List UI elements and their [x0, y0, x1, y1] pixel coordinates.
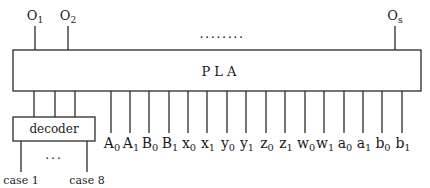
diagram-canvas: P L A ........ O1O2Os decoder ... case 1…	[0, 0, 430, 188]
input-label-A0: A0	[103, 135, 120, 153]
input-label-B1-base: B	[162, 135, 172, 151]
input-label-b1-subscript: 1	[404, 142, 410, 153]
input-label-b0-subscript: 0	[384, 142, 390, 153]
input-label-w0-subscript: 0	[309, 142, 315, 153]
input-label-y0-base: y	[220, 135, 229, 151]
input-label-y1-base: y	[239, 135, 248, 151]
output-label-os: Os	[387, 8, 403, 25]
input-label-x1: x1	[201, 135, 215, 153]
input-label-a0-subscript: 0	[346, 142, 352, 153]
output-label-o2-subscript: 2	[70, 15, 76, 25]
input-label-B0: B0	[142, 135, 159, 153]
input-label-b0-base: b	[375, 135, 384, 151]
input-label-A1: A1	[122, 135, 139, 153]
decoder-label: decoder	[29, 122, 79, 136]
input-label-x0-base: x	[182, 135, 190, 151]
input-label-x1-subscript: 1	[209, 142, 215, 153]
pla-label: P L A	[201, 64, 237, 79]
input-label-w1-subscript: 1	[328, 142, 334, 153]
output-label-o2: O2	[60, 8, 76, 25]
input-label-x0-subscript: 0	[190, 142, 196, 153]
input-label-x1-base: x	[201, 135, 209, 151]
input-label-z1-base: z	[279, 135, 286, 151]
pla-block: P L A	[13, 50, 421, 91]
input-label-B0-subscript: 0	[152, 142, 158, 153]
input-label-B1: B1	[162, 135, 179, 153]
input-label-a1-subscript: 1	[365, 142, 371, 153]
output-label-o1-subscript: 1	[37, 15, 43, 25]
outputs-ellipsis: ........	[199, 26, 244, 41]
pla-diagram: P L A ........ O1O2Os decoder ... case 1…	[0, 0, 430, 188]
decoder-ellipsis: ...	[45, 148, 62, 162]
input-label-B1-subscript: 1	[172, 142, 178, 153]
output-label-o1-base: O	[27, 8, 38, 23]
output-label-os-base: O	[387, 8, 398, 23]
output-label-o2-base: O	[60, 8, 71, 23]
case-label: case 1	[3, 174, 38, 187]
input-label-z0-base: z	[260, 135, 267, 151]
input-label-z0-subscript: 0	[268, 142, 274, 153]
output-label-os-subscript: s	[398, 15, 403, 25]
decoder-input-lines	[34, 91, 75, 117]
input-label-b1: b1	[395, 135, 410, 153]
input-label-B0-base: B	[142, 135, 152, 151]
input-label-y0: y0	[220, 135, 235, 153]
input-label-w0: w0	[297, 135, 315, 153]
input-label-y0-subscript: 0	[229, 142, 235, 153]
input-label-y1: y1	[239, 135, 254, 153]
case-label: case 8	[69, 174, 104, 187]
input-label-x0: x0	[182, 135, 196, 153]
input-label-w0-base: w	[297, 135, 309, 151]
input-label-z1-subscript: 1	[287, 142, 293, 153]
input-label-w1-base: w	[316, 135, 328, 151]
output-label-o1: O1	[27, 8, 43, 25]
input-label-y1-subscript: 1	[248, 142, 254, 153]
input-label-A0-subscript: 0	[114, 142, 120, 153]
input-label-a0: a0	[338, 135, 353, 153]
input-label-z1: z1	[279, 135, 293, 153]
input-label-a1-base: a	[357, 135, 365, 151]
input-label-z0: z0	[260, 135, 274, 153]
input-label-a1: a1	[357, 135, 372, 153]
input-label-b1-base: b	[395, 135, 404, 151]
decoder-block: decoder ... case 1case 8	[3, 91, 104, 187]
input-label-A1-subscript: 1	[133, 142, 139, 153]
input-label-b0: b0	[375, 135, 390, 153]
input-label-w1: w1	[316, 135, 334, 153]
pla-input-lines: A0A1B0B1x0x1y0y1z0z1w0w1a0a1b0b1	[103, 91, 411, 153]
input-label-a0-base: a	[338, 135, 346, 151]
